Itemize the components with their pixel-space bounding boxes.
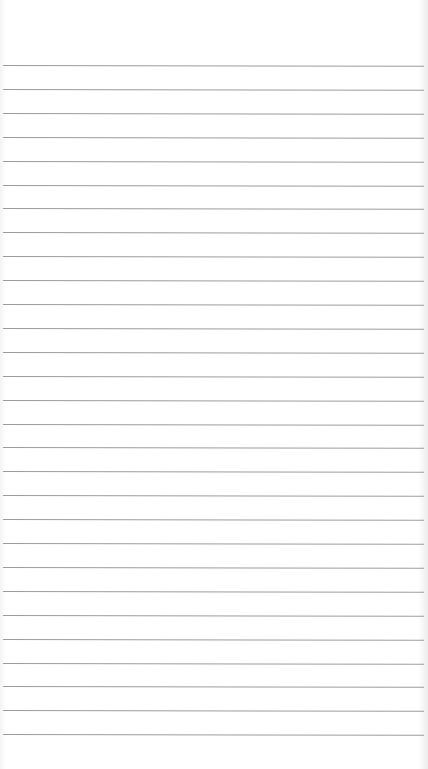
ruled-line [3,471,424,473]
ruled-line [3,519,424,521]
ruled-line [3,663,424,665]
ruled-line [3,639,424,641]
ruled-line [3,591,424,593]
ruled-line [3,376,424,378]
ruled-line [3,328,424,330]
lined-paper-page [0,0,428,769]
ruled-line [3,89,424,91]
ruled-line [3,424,424,426]
ruled-line [3,567,424,569]
ruled-line [3,65,424,67]
ruled-line [3,185,424,187]
ruled-line [3,232,424,234]
ruled-line [3,352,424,354]
ruled-line [3,447,424,449]
ruled-line [3,280,424,282]
ruled-line [3,615,424,617]
ruled-line [3,734,424,736]
ruled-line [3,710,424,712]
ruled-line [3,495,424,497]
ruled-line [3,304,424,306]
ruled-line [3,208,424,210]
ruled-line [3,256,424,258]
ruled-line [3,400,424,402]
ruled-line [3,137,424,139]
ruled-line [3,686,424,688]
ruled-line [3,161,424,163]
ruled-line [3,543,424,545]
ruled-lines [0,0,428,769]
ruled-line [3,113,424,115]
